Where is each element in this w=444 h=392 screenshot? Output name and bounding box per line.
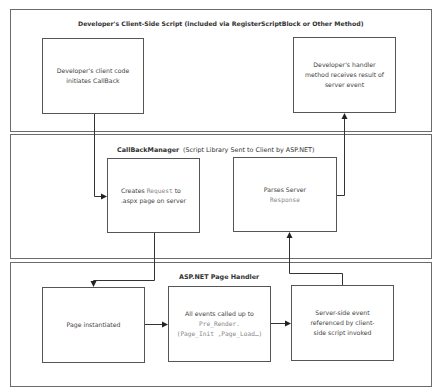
page-handler-title: ASP.NET Page Handler <box>179 273 259 281</box>
page-events-code: (Page_Init ,Page_Load…) <box>177 330 263 337</box>
parse-response-box: Parses Server Response <box>233 157 337 232</box>
page-instantiated-box: Page instantiated <box>42 287 145 363</box>
handler-receives-result-box: Developer's handler method receives resu… <box>293 37 396 113</box>
box-text: method receives result of <box>305 71 384 78</box>
request-code: Request <box>147 187 173 194</box>
box-text: Parses Server <box>264 186 306 193</box>
box-text: Creates <box>121 187 145 194</box>
callback-manager-title: CallBackManager <box>117 146 179 154</box>
box-text: .aspx page on server <box>121 197 186 204</box>
box-text: Server-side event <box>315 309 369 316</box>
box-text: initiates CallBack <box>66 77 119 84</box>
page-events-box: All events called up to Pre_Render. (Pag… <box>168 286 271 362</box>
box-text: server event <box>325 81 364 88</box>
callback-manager-subtitle: (Script Library Sent to Client by ASP.NE… <box>183 146 314 154</box>
pre-render-code: Pre_Render. <box>199 320 240 327</box>
response-code: Response <box>270 196 300 203</box>
client-initiate-callback-box: Developer's client code initiates CallBa… <box>42 38 144 114</box>
client-script-title: Developer's Client-Side Script (included… <box>78 20 364 27</box>
box-text: All events called up to <box>185 310 254 317</box>
box-text: Developer's client code <box>57 67 130 74</box>
box-text: Developer's handler <box>313 61 375 68</box>
box-text: to <box>175 187 181 194</box>
server-event-invoked-box: Server-side event referenced by client- … <box>291 285 394 361</box>
box-text: referenced by client- <box>310 319 374 326</box>
create-request-box: Creates Request to .aspx page on server <box>107 158 200 233</box>
box-text: Page instantiated <box>66 321 120 328</box>
box-text: side script invoked <box>313 329 371 336</box>
